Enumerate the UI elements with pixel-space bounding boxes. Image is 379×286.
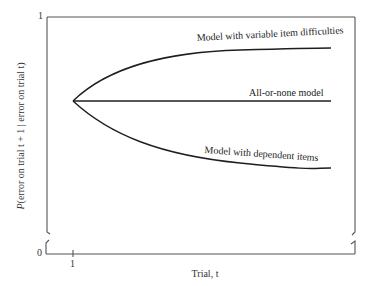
y-axis-lower: [46, 240, 49, 254]
y-tick-0: 0: [37, 247, 42, 258]
x-tick-label-1: 1: [70, 258, 75, 269]
y-axis-upper: [47, 17, 50, 234]
y-tick-1: 1: [38, 10, 43, 21]
y-axis-label-rest: (error on trial t + 1 | error on trial t…: [15, 62, 26, 203]
y-axis-label-prefix: P: [15, 203, 26, 209]
chart-canvas: [0, 0, 379, 286]
frame-right-lower: [351, 241, 355, 254]
curve-label-all-or-none: All-or-none model: [249, 87, 324, 98]
frame-right-upper: [352, 17, 355, 235]
y-axis-label: P(error on trial t + 1 | error on trial …: [15, 62, 26, 209]
x-axis-label: Trial, t: [192, 268, 219, 279]
